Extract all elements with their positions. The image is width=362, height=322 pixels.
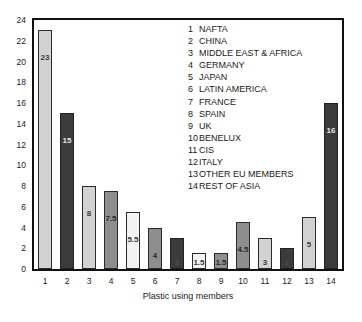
- bar-value-label: 5: [303, 240, 315, 249]
- x-tick-13: 13: [299, 276, 319, 286]
- legend-item-12: 12ITALY: [188, 156, 302, 168]
- y-tick-14: 14: [4, 119, 26, 129]
- bar-value-label: 3: [171, 258, 183, 267]
- bar-11[interactable]: 3: [258, 238, 272, 269]
- y-tick-18: 18: [4, 77, 26, 87]
- bar-6[interactable]: 4: [148, 228, 162, 270]
- x-tick-1: 1: [35, 276, 55, 286]
- bar-13[interactable]: 5: [302, 217, 316, 269]
- x-tick-11: 11: [255, 276, 275, 286]
- legend-item-13: 13OTHER EU MEMBERS: [188, 168, 302, 180]
- legend-number: 8: [188, 108, 199, 120]
- y-tick-12: 12: [4, 140, 26, 150]
- bar-value-label: 5.5: [127, 235, 139, 244]
- legend-number: 4: [188, 59, 199, 71]
- y-tick-2: 2: [4, 243, 26, 253]
- bar-8[interactable]: 1.5: [192, 253, 206, 269]
- x-axis-title: Plastic using members: [32, 291, 344, 301]
- legend-label: REST OF ASIA: [199, 181, 260, 191]
- legend-number: 2: [188, 35, 199, 47]
- bar-10[interactable]: 4.5: [236, 222, 250, 269]
- legend-label: CHINA: [199, 36, 227, 46]
- legend-number: 11: [188, 144, 199, 156]
- legend-label: MIDDLE EAST & AFRICA: [199, 48, 302, 58]
- legend-item-1: 1NAFTA: [188, 23, 302, 35]
- bar-value-label: 7.5: [105, 214, 117, 223]
- bar-value-label: 4.5: [237, 245, 249, 254]
- legend-number: 3: [188, 47, 199, 59]
- legend-label: BENELUX: [199, 133, 241, 143]
- bar-1[interactable]: 23: [38, 30, 52, 269]
- y-tick-16: 16: [4, 98, 26, 108]
- x-tick-4: 4: [101, 276, 121, 286]
- x-tick-10: 10: [233, 276, 253, 286]
- x-tick-9: 9: [211, 276, 231, 286]
- legend-number: 5: [188, 71, 199, 83]
- legend-label: UK: [199, 121, 212, 131]
- bar-value-label: 16: [325, 126, 337, 135]
- legend-label: NAFTA: [199, 24, 228, 34]
- legend-label: JAPAN: [199, 72, 227, 82]
- bar-value-label: 1.5: [215, 258, 227, 267]
- legend-label: ITALY: [199, 157, 223, 167]
- bar-7[interactable]: 3: [170, 238, 184, 269]
- chart-figure: % of plastic use 242220181614121086420 2…: [0, 0, 362, 322]
- legend-number: 10: [188, 132, 199, 144]
- y-tick-6: 6: [4, 202, 26, 212]
- x-tick-5: 5: [123, 276, 143, 286]
- bar-12[interactable]: 2: [280, 248, 294, 269]
- bar-value-label: 3: [259, 258, 271, 267]
- bar-9[interactable]: 1.5: [214, 253, 228, 269]
- legend-number: 1: [188, 23, 199, 35]
- bar-2[interactable]: 15: [60, 113, 74, 269]
- legend-item-2: 2CHINA: [188, 35, 302, 47]
- bar-value-label: 1.5: [193, 258, 205, 267]
- legend-number: 14: [188, 180, 199, 192]
- legend-item-10: 10BENELUX: [188, 132, 302, 144]
- legend-item-11: 11CIS: [188, 144, 302, 156]
- y-tick-0: 0: [4, 264, 26, 274]
- legend-item-5: 5JAPAN: [188, 71, 302, 83]
- bar-4[interactable]: 7.5: [104, 191, 118, 269]
- bar-value-label: 4: [149, 251, 161, 260]
- bar-value-label: 8: [83, 209, 95, 218]
- y-tick-24: 24: [4, 15, 26, 25]
- y-tick-20: 20: [4, 57, 26, 67]
- legend-item-9: 9UK: [188, 120, 302, 132]
- x-tick-2: 2: [57, 276, 77, 286]
- x-tick-14: 14: [321, 276, 341, 286]
- legend-label: SPAIN: [199, 109, 225, 119]
- x-tick-7: 7: [167, 276, 187, 286]
- legend-item-7: 7FRANCE: [188, 96, 302, 108]
- bar-value-label: 2: [281, 258, 293, 267]
- bar-3[interactable]: 8: [82, 186, 96, 269]
- bar-value-label: 15: [61, 136, 73, 145]
- y-tick-8: 8: [4, 181, 26, 191]
- legend-number: 6: [188, 83, 199, 95]
- legend: 1NAFTA2CHINA3MIDDLE EAST & AFRICA4GERMAN…: [188, 23, 302, 192]
- legend-label: OTHER EU MEMBERS: [199, 169, 294, 179]
- y-tick-22: 22: [4, 36, 26, 46]
- legend-label: FRANCE: [199, 97, 236, 107]
- legend-item-4: 4GERMANY: [188, 59, 302, 71]
- legend-item-14: 14REST OF ASIA: [188, 180, 302, 192]
- y-tick-10: 10: [4, 160, 26, 170]
- bar-value-label: 23: [39, 53, 51, 62]
- bar-5[interactable]: 5.5: [126, 212, 140, 269]
- legend-number: 13: [188, 168, 199, 180]
- legend-item-8: 8SPAIN: [188, 108, 302, 120]
- legend-item-6: 6LATIN AMERICA: [188, 83, 302, 95]
- legend-number: 7: [188, 96, 199, 108]
- x-tick-12: 12: [277, 276, 297, 286]
- legend-number: 9: [188, 120, 199, 132]
- legend-item-3: 3MIDDLE EAST & AFRICA: [188, 47, 302, 59]
- legend-number: 12: [188, 156, 199, 168]
- x-tick-3: 3: [79, 276, 99, 286]
- x-tick-6: 6: [145, 276, 165, 286]
- figure-caption: [6, 312, 356, 321]
- legend-label: GERMANY: [199, 60, 245, 70]
- x-tick-8: 8: [189, 276, 209, 286]
- legend-label: CIS: [199, 145, 214, 155]
- bar-14[interactable]: 16: [324, 103, 338, 269]
- y-tick-4: 4: [4, 223, 26, 233]
